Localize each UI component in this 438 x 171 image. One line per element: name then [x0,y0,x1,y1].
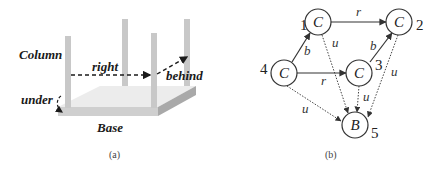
node-2-label: C [394,14,405,30]
edge-3-5 [357,86,359,112]
node-1-label: C [313,14,324,30]
node-3: C 3 [346,57,383,86]
node-5-number: 5 [371,125,379,141]
edge-label-2-5: u [391,64,398,79]
node-2-number: 2 [416,17,424,33]
node-5-label: B [350,117,359,133]
panel-a: Column right behind under Base (a) [19,19,203,161]
edge-label-4-1: b [304,43,311,58]
column-front-left [65,36,71,108]
base-label: Base [96,120,123,135]
panel-b: r b r b u u u u C 1 C 2 C 3 C 4 [260,4,424,161]
edge-label-4-3: r [321,73,327,88]
node-1: C 1 [300,9,331,35]
caption-b: (b) [325,149,337,161]
column-front-right [151,33,157,108]
under-label: under [21,92,54,107]
edge-label-1-5: u [332,35,339,50]
figure-canvas: Column right behind under Base (a) r b r… [0,0,438,171]
node-4: C 4 [260,60,297,86]
column-back-left [122,19,128,87]
node-1-number: 1 [300,17,308,33]
edge-label-3-2: b [370,38,377,53]
node-2: C 2 [386,9,424,35]
node-4-number: 4 [260,61,268,77]
right-label: right [92,59,118,74]
node-3-number: 3 [375,57,383,73]
edge-label-4-5: u [302,101,309,116]
node-5: B 5 [342,112,379,141]
edge-label-1-2: r [356,4,362,19]
caption-a: (a) [109,149,120,161]
node-3-label: C [354,65,365,81]
column-label: Column [19,47,62,62]
base-front [58,107,158,116]
edge-label-3-5: u [363,89,370,104]
behind-label: behind [166,68,203,83]
node-4-label: C [279,65,290,81]
edge-4-5 [287,86,341,121]
